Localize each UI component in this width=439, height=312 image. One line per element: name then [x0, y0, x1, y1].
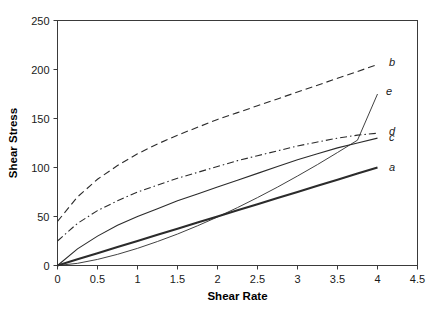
x-axis-ticks: 00.511.522.533.544.5	[54, 266, 425, 285]
x-tick-label: 4	[374, 273, 380, 285]
curve-label-b: b	[389, 56, 395, 68]
curve-label-a: a	[389, 161, 395, 173]
x-tick-label: 2.5	[250, 273, 265, 285]
x-tick-label: 4.5	[410, 273, 425, 285]
y-tick-label: 250	[31, 15, 49, 27]
x-tick-label: 1	[134, 273, 140, 285]
data-series-group	[58, 65, 378, 266]
x-tick-label: 3.5	[330, 273, 345, 285]
curve-label-d: d	[389, 125, 396, 137]
x-tick-label: 1.5	[170, 273, 185, 285]
y-axis-title: Shear Stress	[7, 108, 19, 178]
x-tick-label: 2	[214, 273, 220, 285]
chart-container: 050100150200250 00.511.522.533.544.5 abc…	[0, 0, 439, 312]
curve-label-e: e	[386, 85, 392, 97]
y-tick-label: 100	[31, 162, 49, 174]
shear-stress-vs-shear-rate-chart: 050100150200250 00.511.522.533.544.5 abc…	[0, 0, 439, 312]
x-tick-label: 0.5	[90, 273, 105, 285]
curve-labels-group: abcde	[386, 56, 396, 173]
y-tick-label: 0	[43, 260, 49, 272]
x-tick-label: 3	[294, 273, 300, 285]
y-tick-label: 150	[31, 113, 49, 125]
y-tick-label: 50	[37, 211, 49, 223]
x-axis-title: Shear Rate	[207, 290, 267, 302]
y-axis-ticks: 050100150200250	[31, 15, 57, 272]
x-tick-label: 0	[54, 273, 60, 285]
series-line-b	[58, 65, 378, 222]
y-tick-label: 200	[31, 64, 49, 76]
